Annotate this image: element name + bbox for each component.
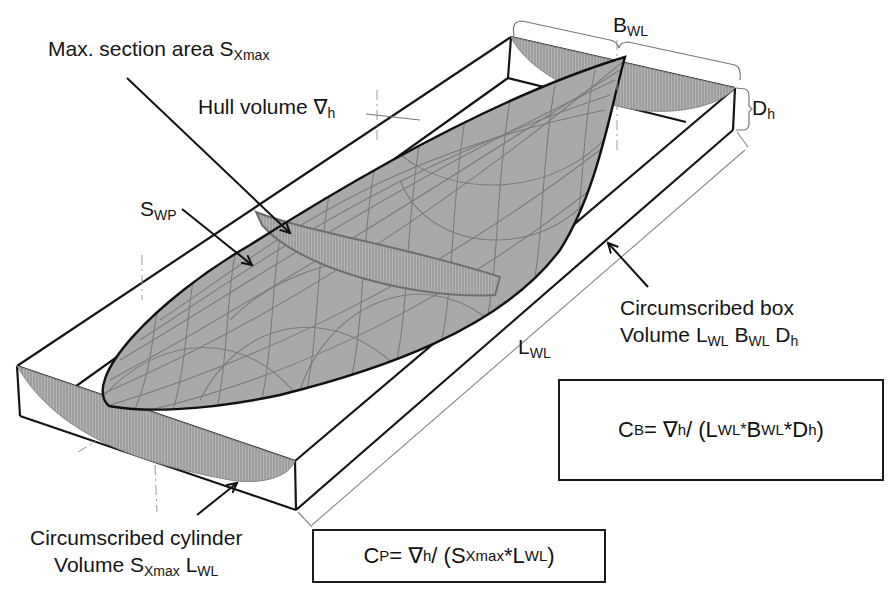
formula-text: *L xyxy=(504,543,525,569)
cylinder-arrow xyxy=(197,483,237,515)
label-subscript: Xmax xyxy=(144,563,180,579)
cylinder-label-line2: Volume SXmax LWL xyxy=(30,551,242,578)
label-text: S xyxy=(130,553,144,576)
label-subscript: WL xyxy=(708,333,729,349)
label-bwl: BWL xyxy=(613,14,648,35)
label-hull-volume: Hull volume ∇h xyxy=(198,96,335,117)
box-label-line1: Circumscribed box xyxy=(620,294,798,321)
label-dh: Dh xyxy=(752,97,775,118)
prismatic-coefficient-formula: CP = ∇h / (SXmax*LWL) xyxy=(312,529,606,583)
label-text: Hull volume ∇ xyxy=(198,95,328,118)
label-text: D xyxy=(752,96,767,119)
label-text: L xyxy=(696,323,708,346)
label-subscript: WP xyxy=(154,207,177,223)
cylinder-label-line1: Circumscribed cylinder xyxy=(30,524,242,551)
label-circumscribed-box: Circumscribed box Volume LWL BWL Dh xyxy=(620,294,798,349)
formula-text: C xyxy=(618,417,634,443)
label-subscript: WL xyxy=(197,563,218,579)
label-subscript: WL xyxy=(748,333,769,349)
formula-text: B xyxy=(747,417,762,443)
label-lwl: LWL xyxy=(518,336,551,357)
label-text: D xyxy=(775,323,790,346)
box-arrow xyxy=(608,243,648,287)
formula-text: ) xyxy=(817,417,824,443)
label-subscript: WL xyxy=(530,345,551,361)
label-subscript: h xyxy=(328,105,336,121)
label-subscript: WL xyxy=(627,23,648,39)
label-text: L xyxy=(186,553,198,576)
label-subscript: h xyxy=(767,106,775,122)
block-coefficient-formula: CB = ∇h / (LWL* BWL*Dh) xyxy=(558,379,884,481)
formula-text: / (L xyxy=(686,417,718,443)
formula-text: ) xyxy=(547,543,554,569)
label-text: B xyxy=(613,13,627,36)
label-text: Volume xyxy=(54,553,130,576)
label-swp: SWP xyxy=(140,198,177,219)
formula-text: = ∇ xyxy=(389,543,423,569)
formula-text: C xyxy=(363,543,379,569)
dh-bracket xyxy=(736,88,752,130)
formula-text: = ∇ xyxy=(644,417,678,443)
label-max-section-area: Max. section area SXmax xyxy=(48,38,269,59)
formula-text: / (S xyxy=(431,543,465,569)
formula-text: *D xyxy=(784,417,808,443)
label-text: L xyxy=(518,335,530,358)
label-text: Volume xyxy=(620,323,696,346)
label-text: Max. section area S xyxy=(48,37,234,60)
label-circumscribed-cylinder: Circumscribed cylinder Volume SXmax LWL xyxy=(30,524,242,579)
label-subscript: h xyxy=(790,333,798,349)
box-label-line2: Volume LWL BWL Dh xyxy=(620,321,798,348)
label-subscript: Xmax xyxy=(234,47,270,63)
hull-body xyxy=(100,57,625,420)
label-text: B xyxy=(734,323,748,346)
label-text: S xyxy=(140,197,154,220)
